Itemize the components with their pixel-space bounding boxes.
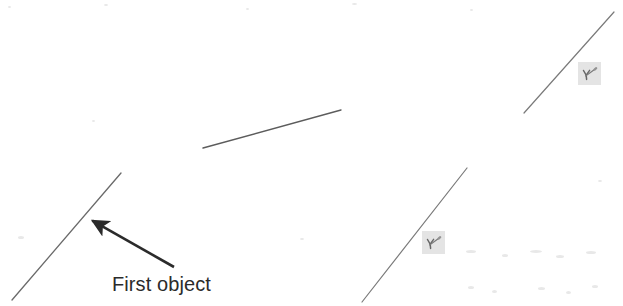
first-object-arrow [92,221,174,267]
first-object-label: First object [112,274,211,294]
scan-speck [246,8,249,10]
scan-speck [556,255,564,258]
scan-speck [530,250,542,253]
figure-canvas: First object [0,0,623,306]
callout-arrow-group [92,221,174,267]
annotation-marker-lower[interactable] [422,231,445,254]
scan-speck [18,236,24,239]
second-object-line [203,110,341,148]
scan-speck [538,287,545,290]
scan-speck [468,286,474,289]
pen-check-glyph [422,231,445,254]
first-object-line [12,173,121,300]
scan-speck [502,254,508,257]
third-object-line [362,168,467,302]
annotation-marker-upper[interactable] [578,62,601,85]
object-lines-group [12,12,614,302]
scan-speck [598,180,602,182]
scan-speck [470,9,473,11]
scan-speck [586,251,596,254]
scan-speck [492,290,497,293]
scan-speck [592,285,598,288]
scan-speck [300,238,304,240]
scan-speck [566,291,571,294]
figure-vector-layer [0,0,623,306]
scan-speck [104,4,108,6]
pen-check-glyph [578,62,601,85]
scan-speck [92,120,95,122]
scan-speck [8,6,11,8]
scan-speck [466,250,476,253]
scan-speck [352,3,357,5]
